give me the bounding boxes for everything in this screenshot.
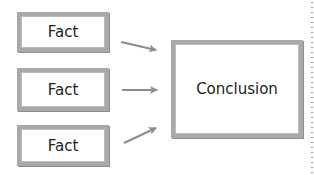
arrow-1-icon [121, 42, 156, 50]
dotted-divider [311, 0, 313, 175]
arrow-3-icon [124, 128, 156, 143]
arrows-layer [0, 0, 314, 175]
